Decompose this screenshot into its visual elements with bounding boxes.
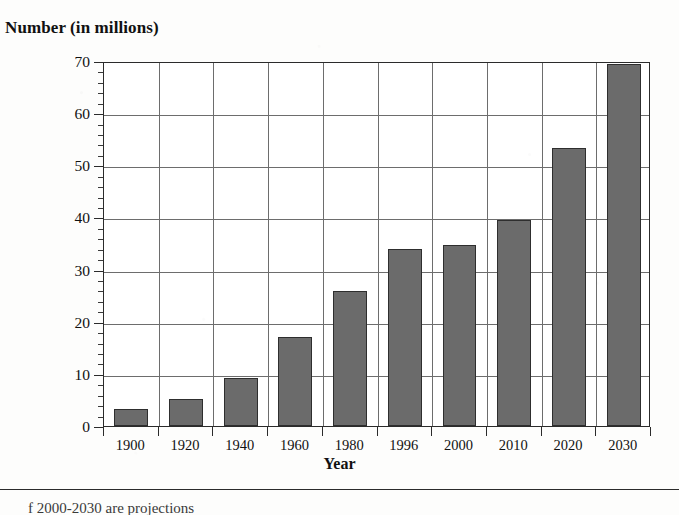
gridline-vertical [432, 63, 433, 426]
bar-1960 [278, 337, 312, 426]
x-tick [431, 427, 432, 436]
y-axis: 010203040506070 [0, 62, 103, 427]
bar-1920 [169, 399, 203, 426]
x-axis-label: Year [0, 455, 679, 473]
footer-caption: f 2000-2030 are projections [28, 500, 668, 515]
x-tick-label: 1960 [280, 438, 309, 453]
gridline-vertical [542, 63, 543, 426]
x-tick [541, 427, 542, 436]
gridline-horizontal [104, 115, 649, 116]
gridline-vertical [487, 63, 488, 426]
y-tick-major [94, 323, 103, 324]
gridline-vertical [268, 63, 269, 426]
y-tick-major [94, 375, 103, 376]
bar-1940 [224, 378, 258, 426]
y-tick-label: 60 [75, 106, 91, 122]
x-tick [103, 427, 104, 436]
x-tick [650, 427, 651, 436]
footer-divider [0, 489, 679, 490]
bar-2010 [497, 220, 531, 426]
bar-1996 [388, 249, 422, 426]
x-tick [158, 427, 159, 436]
gridline-vertical [378, 63, 379, 426]
x-tick-label: 1996 [389, 438, 418, 453]
gridline-vertical [596, 63, 597, 426]
bar-1980 [333, 291, 367, 426]
y-tick-label: 50 [75, 159, 91, 175]
x-tick-label: 2030 [608, 438, 637, 453]
bar-2000 [443, 245, 477, 426]
y-tick-label: 40 [75, 211, 91, 227]
y-tick-label: 20 [75, 315, 91, 331]
x-tick-label: 2010 [499, 438, 528, 453]
bar-2030 [607, 64, 641, 426]
chart-title: Number (in millions) [5, 18, 159, 38]
y-tick-major [94, 114, 103, 115]
y-tick-major [94, 62, 103, 63]
y-tick-major [94, 218, 103, 219]
x-tick-label: 2020 [553, 438, 582, 453]
y-tick-major [94, 427, 103, 428]
x-tick [212, 427, 213, 436]
y-tick-label: 0 [82, 419, 90, 435]
x-tick [595, 427, 596, 436]
x-tick-label: 2000 [444, 438, 473, 453]
y-tick-label: 30 [75, 263, 91, 279]
y-tick-label: 10 [75, 367, 91, 383]
x-tick [486, 427, 487, 436]
x-tick-label: 1920 [171, 438, 200, 453]
x-tick-label: 1980 [335, 438, 364, 453]
bar-1900 [114, 409, 148, 426]
gridline-vertical [159, 63, 160, 426]
gridline-vertical [213, 63, 214, 426]
x-axis: 1900192019401960198019962000201020202030 [103, 427, 650, 457]
x-tick [322, 427, 323, 436]
x-tick [267, 427, 268, 436]
x-tick-label: 1940 [225, 438, 254, 453]
plot-area [103, 62, 650, 427]
bar-2020 [552, 148, 586, 426]
y-tick-major [94, 166, 103, 167]
x-tick [377, 427, 378, 436]
gridline-vertical [323, 63, 324, 426]
x-tick-label: 1900 [116, 438, 145, 453]
y-tick-major [94, 271, 103, 272]
y-tick-label: 70 [75, 54, 91, 70]
